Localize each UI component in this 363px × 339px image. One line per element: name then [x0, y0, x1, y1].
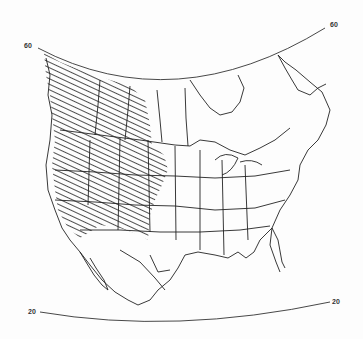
latitude-label-20-right: 20	[332, 298, 340, 305]
latitude-label-20-left: 20	[28, 308, 36, 315]
latitude-line-20	[40, 302, 330, 321]
latitude-label-60-left: 60	[24, 42, 32, 49]
map-canvas	[0, 0, 363, 339]
map-figure: 60 60 20 20	[0, 0, 363, 339]
latitude-label-60-right: 60	[330, 21, 338, 28]
